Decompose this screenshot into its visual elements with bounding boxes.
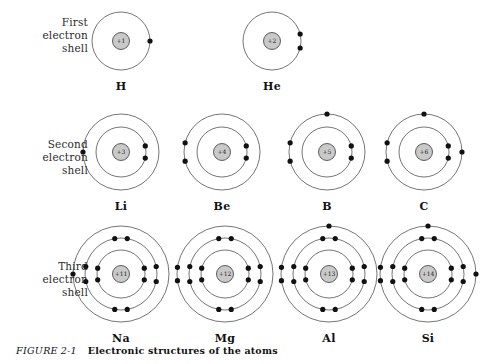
shell-row-label-line: First	[14, 16, 88, 29]
electron-dot	[112, 307, 117, 312]
electron-dot	[324, 111, 329, 116]
electron-dot	[333, 236, 338, 241]
atom-symbol-label: Na	[64, 332, 178, 345]
shell-row-label: Firstelectronshell	[14, 16, 88, 55]
electron-dot	[112, 236, 117, 241]
atom-diagram-li: +3Li	[74, 105, 168, 213]
electron-dot	[291, 264, 296, 269]
nucleus-charge-label: +14	[422, 270, 435, 277]
electron-dot	[432, 236, 437, 241]
electron-dot	[326, 223, 331, 228]
electron-dot	[333, 307, 338, 312]
electron-dot	[303, 277, 308, 282]
nucleus-charge-label: +4	[218, 148, 227, 155]
electron-dot	[175, 265, 180, 270]
electron-dot	[402, 266, 407, 271]
atom-svg: +14	[371, 217, 481, 331]
atom-diagram-na: +11Na	[64, 217, 178, 345]
shell-row-second: Secondelectronshell+3Li+4Be+5B+6C	[0, 100, 481, 220]
electron-dot	[187, 279, 192, 284]
electron-dot	[425, 223, 430, 228]
electron-dot	[229, 236, 234, 241]
figure-canvas: Firstelectronshell+1H+2He Secondelectron…	[0, 0, 481, 364]
electron-dot	[446, 143, 451, 148]
electron-dot	[125, 236, 130, 241]
atom-svg: +3	[74, 105, 168, 199]
nucleus-charge-label: +12	[219, 270, 232, 277]
electron-dot	[419, 236, 424, 241]
electron-dot	[349, 155, 354, 160]
atom-symbol-label: B	[280, 200, 374, 213]
electron-dot	[461, 279, 466, 284]
electron-dot	[449, 266, 454, 271]
electron-dot	[390, 264, 395, 269]
atom-svg: +1	[83, 3, 159, 79]
electron-dot	[350, 277, 355, 282]
atom-symbol-label: Be	[175, 200, 269, 213]
atom-diagram-be: +4Be	[175, 105, 269, 213]
nucleus-charge-label: +3	[117, 148, 126, 155]
electron-dot	[187, 264, 192, 269]
electron-dot	[216, 236, 221, 241]
electron-dot	[473, 271, 478, 276]
electron-dot	[258, 279, 263, 284]
electron-dot	[288, 140, 293, 145]
electron-dot	[83, 264, 88, 269]
atom-diagram-b: +5B	[280, 105, 374, 213]
electron-dot	[291, 279, 296, 284]
electron-dot	[147, 38, 152, 43]
electron-dot	[143, 155, 148, 160]
atom-diagram-h: +1H	[83, 3, 159, 93]
electron-dot	[80, 149, 85, 154]
atom-diagram-c: +6C	[377, 105, 471, 213]
electron-dot	[183, 140, 188, 145]
electron-dot	[461, 264, 466, 269]
electron-dot	[244, 143, 249, 148]
atom-svg: +4	[175, 105, 269, 199]
shell-row-third: Thirdelectronshell+11Na+12Mg+13Al+14Si	[0, 220, 481, 342]
electron-dot	[303, 266, 308, 271]
nucleus-charge-label: +13	[323, 270, 336, 277]
electron-dot	[142, 266, 147, 271]
electron-dot	[143, 143, 148, 148]
nucleus-charge-label: +5	[323, 148, 332, 155]
electron-dot	[246, 277, 251, 282]
electron-dot	[298, 31, 303, 36]
electron-dot	[175, 278, 180, 283]
atom-diagram-mg: +12Mg	[168, 217, 282, 345]
nucleus-charge-label: +1	[117, 37, 126, 44]
caption-text: Electronic structures of the atoms	[88, 345, 278, 356]
electron-dot	[449, 277, 454, 282]
caption-prefix: FIGURE	[16, 345, 58, 356]
atom-svg: +13	[272, 217, 386, 331]
nucleus-charge-label: +11	[115, 270, 128, 277]
electron-dot	[298, 45, 303, 50]
atom-symbol-label: C	[377, 200, 471, 213]
figure-caption: FIGURE 2-1 Electronic structures of the …	[16, 345, 278, 356]
nucleus-charge-label: +6	[420, 148, 429, 155]
atom-symbol-label: H	[83, 80, 159, 93]
electron-dot	[390, 279, 395, 284]
electron-dot	[349, 143, 354, 148]
electron-dot	[385, 159, 390, 164]
atom-svg: +2	[234, 3, 310, 79]
electron-dot	[402, 277, 407, 282]
electron-dot	[432, 307, 437, 312]
electron-dot	[244, 155, 249, 160]
electron-dot	[288, 159, 293, 164]
electron-dot	[246, 266, 251, 271]
electron-dot	[199, 277, 204, 282]
electron-dot	[459, 149, 464, 154]
atom-symbol-label: Mg	[168, 332, 282, 345]
electron-dot	[320, 307, 325, 312]
caption-number: 2-1	[61, 345, 77, 356]
atom-diagram-al: +13Al	[272, 217, 386, 345]
electron-dot	[95, 277, 100, 282]
electron-dot	[279, 278, 284, 283]
nucleus-charge-label: +2	[268, 37, 277, 44]
atom-symbol-label: Si	[371, 332, 481, 345]
electron-dot	[154, 264, 159, 269]
atom-svg: +5	[280, 105, 374, 199]
electron-dot	[378, 278, 383, 283]
electron-dot	[125, 307, 130, 312]
